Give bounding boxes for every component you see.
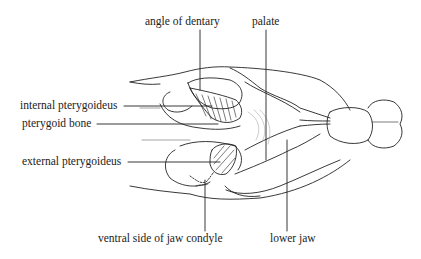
label-ventral-side-of-jaw-condyle: ventral side of jaw condyle — [98, 233, 223, 245]
skull-drawing — [0, 0, 421, 259]
label-internal-pterygoideus: internal pterygoideus — [20, 100, 117, 112]
label-lower-jaw: lower jaw — [270, 233, 316, 245]
label-palate: palate — [252, 16, 279, 28]
label-pterygoid-bone: pterygoid bone — [22, 118, 91, 130]
label-angle-of-dentary: angle of dentary — [145, 16, 220, 28]
anatomy-diagram: angle of dentary palate internal pterygo… — [0, 0, 421, 259]
label-external-pterygoideus: external pterygoideus — [22, 156, 121, 168]
